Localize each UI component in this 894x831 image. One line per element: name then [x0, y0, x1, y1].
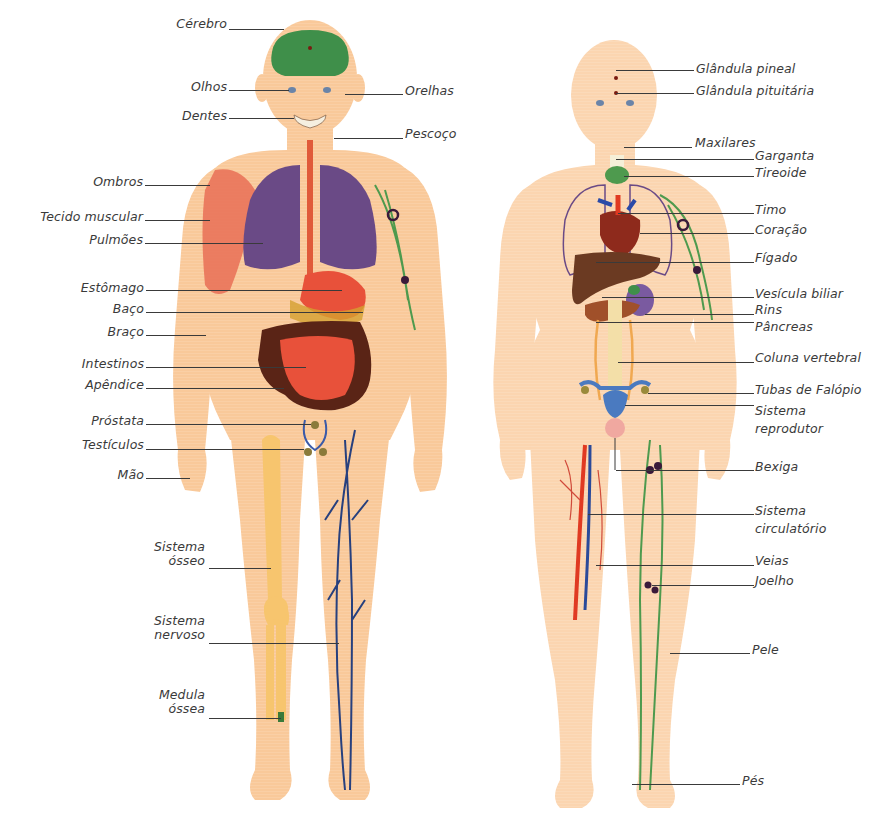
- spine: [608, 300, 622, 400]
- leader-line: [146, 290, 342, 291]
- label-mao: Mão: [118, 468, 144, 482]
- label-vesicula-biliar: Vesícula biliar: [755, 287, 843, 301]
- label-ombros: Ombros: [93, 175, 143, 189]
- label-line-2: reprodutor: [755, 422, 823, 436]
- label-sistema-nervoso: Sistema nervoso: [154, 614, 205, 642]
- leader-line: [209, 718, 281, 719]
- leader-line: [616, 70, 694, 71]
- label-tireoide: Tireoide: [755, 166, 806, 180]
- label-line-1: Sistema: [154, 614, 205, 628]
- label-apendice: Apêndice: [85, 378, 144, 392]
- leader-line: [596, 262, 754, 263]
- label-braco: Braço: [108, 325, 144, 339]
- label-line-2: óssea: [159, 702, 205, 716]
- label-prostata: Próstata: [91, 414, 144, 428]
- label-rins: Rins: [755, 303, 782, 317]
- leader-line: [616, 93, 694, 94]
- label-line-2: nervoso: [154, 628, 205, 642]
- leader-line: [648, 393, 754, 394]
- label-figado: Fígado: [755, 251, 797, 265]
- label-olhos: Olhos: [191, 80, 227, 94]
- label-garganta: Garganta: [755, 149, 814, 163]
- label-timo: Timo: [755, 203, 786, 217]
- leader-line: [632, 784, 740, 785]
- leader-line: [229, 90, 289, 91]
- label-maxilares: Maxilares: [695, 136, 756, 150]
- label-coluna-vertebral: Coluna vertebral: [755, 351, 861, 365]
- leader-line: [618, 362, 754, 363]
- leader-line: [229, 29, 284, 30]
- label-intestinos: Intestinos: [82, 357, 144, 371]
- leader-line: [602, 297, 754, 298]
- label-orelhas: Orelhas: [405, 84, 454, 98]
- leader-line: [616, 159, 754, 160]
- leader-line: [334, 138, 403, 139]
- leader-line: [588, 514, 754, 515]
- label-testiculos: Testículos: [82, 438, 144, 452]
- female-figure: [490, 40, 740, 815]
- leader-line: [146, 424, 311, 425]
- label-pescoco: Pescoço: [405, 127, 456, 141]
- label-baco: Baço: [113, 302, 144, 316]
- leader-line: [145, 220, 210, 221]
- label-line-1: Sistema: [154, 540, 205, 554]
- label-cerebro: Cérebro: [176, 17, 227, 31]
- label-estomago: Estômago: [81, 281, 144, 295]
- brain: [271, 30, 349, 76]
- leader-line: [624, 176, 754, 177]
- leader-line: [670, 653, 750, 654]
- label-sistema-reprodutor: Sistema reprodutor: [755, 404, 823, 436]
- leader-line: [618, 213, 754, 214]
- leader-line: [146, 312, 363, 313]
- leader-line: [624, 147, 692, 148]
- leader-line: [209, 643, 339, 644]
- label-line-1: Sistema: [755, 404, 823, 418]
- label-joelho: Joelho: [755, 574, 794, 588]
- leader-line: [596, 322, 754, 323]
- leader-line: [229, 118, 294, 119]
- leader-line: [146, 449, 304, 450]
- label-glandula-pituitaria: Glândula pituitária: [696, 84, 814, 98]
- label-line-1: Sistema: [755, 504, 826, 518]
- label-sistema-circulatorio: Sistema circulatório: [755, 504, 826, 536]
- label-sistema-osseo: Sistema ósseo: [154, 540, 205, 568]
- label-pes: Pés: [742, 774, 764, 788]
- leader-line: [596, 565, 754, 566]
- leader-line: [652, 585, 754, 586]
- leader-line: [145, 243, 263, 244]
- label-veias: Veias: [755, 554, 789, 568]
- leader-line: [209, 568, 271, 569]
- label-tubas-de-falopio: Tubas de Falópio: [755, 383, 862, 397]
- leader-line: [146, 388, 284, 389]
- leader-line: [146, 478, 190, 479]
- leader-line: [640, 233, 754, 234]
- leader-line: [645, 314, 754, 315]
- label-medula-ossea: Medula óssea: [159, 688, 205, 716]
- label-line-2: ósseo: [154, 554, 205, 568]
- label-line-2: circulatório: [755, 522, 826, 536]
- label-dentes: Dentes: [182, 109, 227, 123]
- label-line-1: Medula: [159, 688, 205, 702]
- label-bexiga: Bexiga: [755, 460, 798, 474]
- label-coracao: Coração: [755, 223, 807, 237]
- label-tecido-muscular: Tecido muscular: [40, 210, 143, 224]
- leader-line: [146, 335, 206, 336]
- label-pulmoes: Pulmões: [89, 233, 143, 247]
- leader-line: [616, 470, 754, 471]
- leader-line: [145, 185, 210, 186]
- leader-line: [345, 94, 403, 95]
- leader-line: [625, 405, 754, 406]
- label-glandula-pineal: Glândula pineal: [696, 62, 795, 76]
- label-pancreas: Pâncreas: [755, 320, 813, 334]
- label-pele: Pele: [752, 643, 779, 657]
- leader-line: [146, 367, 306, 368]
